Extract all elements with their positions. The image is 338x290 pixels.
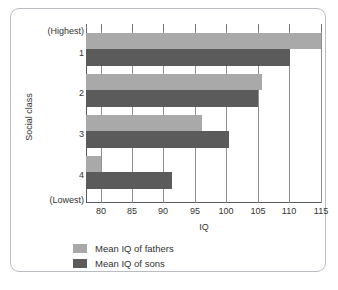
x-tick-label-90: 90 [158, 206, 168, 216]
x-tick-label-115: 115 [314, 206, 328, 216]
legend-swatch-fathers [73, 244, 87, 253]
tick-top-110 [289, 24, 290, 31]
tick-top-axis [86, 24, 87, 31]
bar-sons-class-2 [86, 90, 258, 107]
y-tick-label-lowest: (Lowest) [49, 195, 84, 205]
x-axis-line [86, 202, 322, 203]
x-tick-label-95: 95 [190, 206, 200, 216]
bar-fathers-class-3 [86, 115, 202, 131]
y-axis-category-labels: (Highest) 1 2 3 4 (Lowest) [11, 31, 84, 203]
gridline-115 [321, 31, 322, 203]
tick-top-95 [195, 24, 196, 31]
y-tick-label-highest: (Highest) [47, 26, 84, 36]
legend-label-sons: Mean IQ of sons [95, 258, 165, 269]
tick-top-115 [321, 24, 322, 31]
y-tick-label-3: 3 [79, 129, 84, 139]
tick-top-85 [132, 24, 133, 31]
x-tick-label-80: 80 [96, 206, 106, 216]
x-tick-label-100: 100 [218, 206, 233, 216]
bar-sons-class-4 [86, 172, 172, 189]
bar-sons-class-3 [86, 131, 229, 148]
bar-sons-class-1 [86, 49, 290, 66]
y-tick-label-4: 4 [79, 170, 84, 180]
chart-legend: Mean IQ of fathers Mean IQ of sons [73, 243, 174, 273]
x-tick-label-85: 85 [127, 206, 137, 216]
legend-item-sons: Mean IQ of sons [73, 258, 174, 269]
y-tick-label-2: 2 [79, 88, 84, 98]
x-axis-title: IQ [199, 222, 209, 232]
x-tick-label-110: 110 [282, 206, 296, 216]
tick-top-105 [258, 24, 259, 31]
legend-swatch-sons [73, 259, 87, 268]
x-tick-label-105: 105 [250, 206, 265, 216]
bar-fathers-class-2 [86, 74, 262, 90]
legend-item-fathers: Mean IQ of fathers [73, 243, 174, 254]
tick-top-90 [163, 24, 164, 31]
chart-panel: Social class (Highest) 1 2 3 4 (Lowest) [10, 8, 326, 272]
y-tick-label-1: 1 [79, 48, 84, 58]
legend-label-fathers: Mean IQ of fathers [95, 243, 174, 254]
bar-fathers-class-1 [86, 33, 321, 49]
bar-fathers-class-4 [86, 156, 101, 172]
tick-top-100 [226, 24, 227, 31]
tick-top-80 [101, 24, 102, 31]
plot-area: 80 85 90 95 100 105 110 115 [86, 31, 322, 203]
